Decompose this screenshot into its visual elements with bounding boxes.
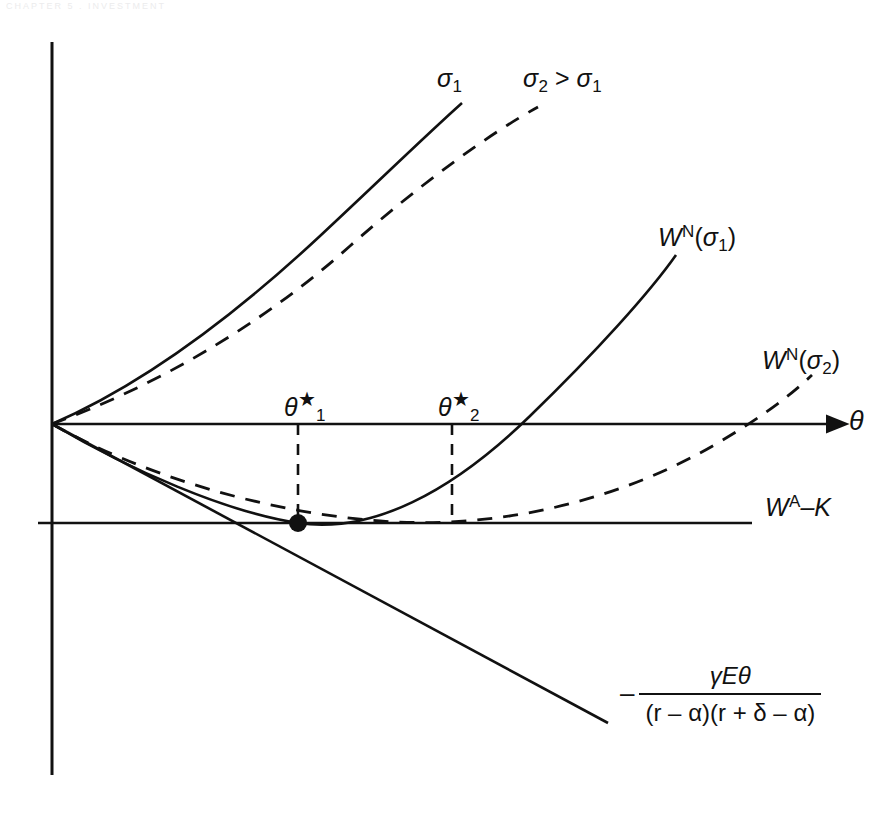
wn-sigma2-curve xyxy=(52,375,812,523)
sigma1-subscript-2: 1 xyxy=(592,77,602,96)
wa-minus-k-superscript: A xyxy=(789,492,801,511)
wn-sigma1-sigma: σ xyxy=(703,223,718,251)
wn-sigma2-close-paren: ) xyxy=(832,346,840,374)
theta-star-1-base: θ xyxy=(284,393,298,421)
upper-solid-sigma1-curve xyxy=(52,103,462,424)
theta-glyph: θ xyxy=(849,406,864,436)
fraction-body: γEθ (r – α)(r + δ – α) xyxy=(639,662,821,727)
wn-sigma2-subscript: 2 xyxy=(822,359,832,378)
theta-star-1-subscript: 1 xyxy=(316,406,326,425)
upper-dashed-sigma2-curve xyxy=(52,107,538,424)
wn-sigma1-close-paren: ) xyxy=(728,223,736,251)
wn-sigma1-label: WN(σ1) xyxy=(658,222,736,256)
wa-minus-k-w: W xyxy=(765,493,789,521)
wn-sigma2-superscript: N xyxy=(786,345,799,364)
theta-star-2-star: ★ xyxy=(452,388,470,410)
tangency-dot-marker xyxy=(289,514,307,532)
fraction-numerator: γEθ xyxy=(700,662,761,693)
wn-sigma2-open-paren: ( xyxy=(798,346,806,374)
sigma2-greater-sigma1-label: σ2 > σ1 xyxy=(523,64,602,97)
theta-star-1-star: ★ xyxy=(298,388,316,410)
wa-minus-k-rest: –K xyxy=(800,493,831,521)
theta-star-2-base: θ xyxy=(438,393,452,421)
gamma-descending-line xyxy=(52,424,608,723)
sigma2-subscript: 2 xyxy=(538,77,548,96)
fraction-denominator: (r – α)(r + δ – α) xyxy=(639,693,821,727)
wn-sigma2-w: W xyxy=(762,346,786,374)
theta-star-1-label: θ★1 xyxy=(284,388,326,426)
sigma1-base: σ xyxy=(437,64,452,92)
wn-sigma1-subscript: 1 xyxy=(718,236,728,255)
theta-star-2-label: θ★2 xyxy=(438,388,480,426)
investment-thresholds-diagram: CHAPTER 5 . INVESTMENT σ1 xyxy=(0,0,896,820)
wn-sigma1-w: W xyxy=(658,223,682,251)
wn-sigma1-superscript: N xyxy=(682,222,695,241)
wn-sigma2-label: WN(σ2) xyxy=(762,345,840,379)
wn-sigma2-sigma: σ xyxy=(807,346,822,374)
sigma1-base-2: σ xyxy=(577,64,592,92)
x-axis-label: θ xyxy=(849,406,864,437)
gamma-fraction-label: – γEθ (r – α)(r + δ – α) xyxy=(620,662,821,727)
theta-star-2-subscript: 2 xyxy=(470,406,480,425)
greater-than-sign: > xyxy=(555,64,570,92)
sigma2-base: σ xyxy=(523,64,538,92)
wa-minus-k-label: WA–K xyxy=(765,492,831,522)
sigma1-subscript: 1 xyxy=(452,77,462,96)
sigma1-curve-label: σ1 xyxy=(437,64,462,97)
wn-sigma1-curve xyxy=(52,255,676,525)
fraction-leading-minus: – xyxy=(620,678,639,711)
wn-sigma1-open-paren: ( xyxy=(694,223,702,251)
